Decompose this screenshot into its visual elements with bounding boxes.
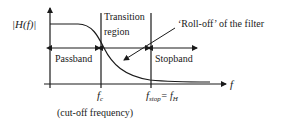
x-axis-label: f bbox=[230, 78, 235, 90]
rolloff-label: ‘Roll-off’ of the filter bbox=[178, 18, 265, 29]
cutoff-note: (cut-off frequency) bbox=[57, 107, 133, 119]
y-axis-label: |H(f)| bbox=[12, 18, 36, 31]
cutoff-marker-label: fc bbox=[97, 89, 104, 103]
transition-label-1: Transition bbox=[104, 11, 145, 22]
passband-label: Passband bbox=[55, 53, 92, 64]
diagram-svg: |H(f)| f Transition region ‘Roll-off’ of… bbox=[0, 0, 286, 124]
stop-marker-label: fstop= fH bbox=[146, 89, 179, 103]
stopband-label: Stopband bbox=[155, 53, 193, 64]
filter-diagram: |H(f)| f Transition region ‘Roll-off’ of… bbox=[0, 0, 286, 124]
transition-label-2: region bbox=[104, 26, 130, 37]
